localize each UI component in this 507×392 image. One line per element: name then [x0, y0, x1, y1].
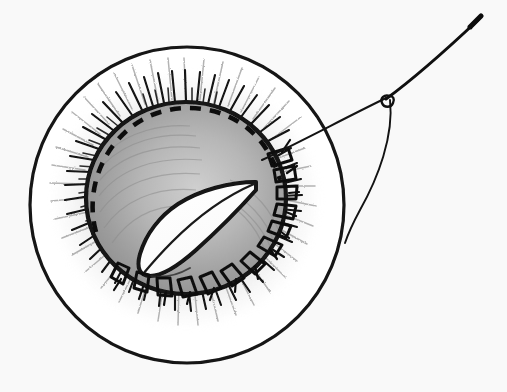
- illustration-canvas: Hand-drawn pencil and ink medical illust…: [0, 0, 507, 392]
- surgical-suture-illustration: [0, 0, 507, 392]
